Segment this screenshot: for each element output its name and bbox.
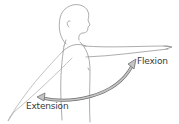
neck xyxy=(64,40,66,46)
flexion-label: Flexion xyxy=(137,56,168,66)
extension-hand xyxy=(8,112,14,121)
torso-front xyxy=(80,42,90,122)
motion-arrow xyxy=(37,59,136,101)
shoulder xyxy=(62,44,86,52)
head-outline xyxy=(59,5,90,44)
chest-contour xyxy=(88,68,89,70)
raised-arm-upper xyxy=(84,46,171,47)
shoulder-motion-diagram: Flexion Extension xyxy=(0,0,179,124)
extension-label: Extension xyxy=(26,101,68,111)
ear xyxy=(67,21,70,27)
hand xyxy=(164,46,172,49)
arrowhead-extension xyxy=(37,93,45,101)
arrowhead-flexion xyxy=(128,59,136,69)
